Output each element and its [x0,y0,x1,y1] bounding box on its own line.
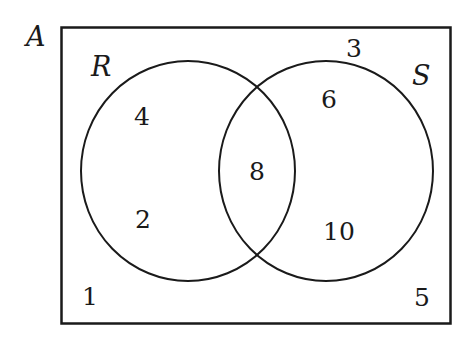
r-only-value-top: 4 [134,102,150,131]
universal-set-label: A [23,21,46,52]
set-r-label: R [90,51,111,82]
outside-value-bottom-right: 5 [414,283,430,312]
intersection-value: 8 [249,157,265,186]
s-only-value-top: 6 [321,85,337,114]
outside-value-top: 3 [346,34,362,63]
s-only-value-bottom: 10 [323,217,355,246]
venn-diagram: A R S 3 4 6 8 2 10 1 5 [0,0,475,344]
outside-value-bottom-left: 1 [82,282,98,311]
set-s-label: S [412,60,431,91]
r-only-value-bottom: 2 [135,205,151,234]
